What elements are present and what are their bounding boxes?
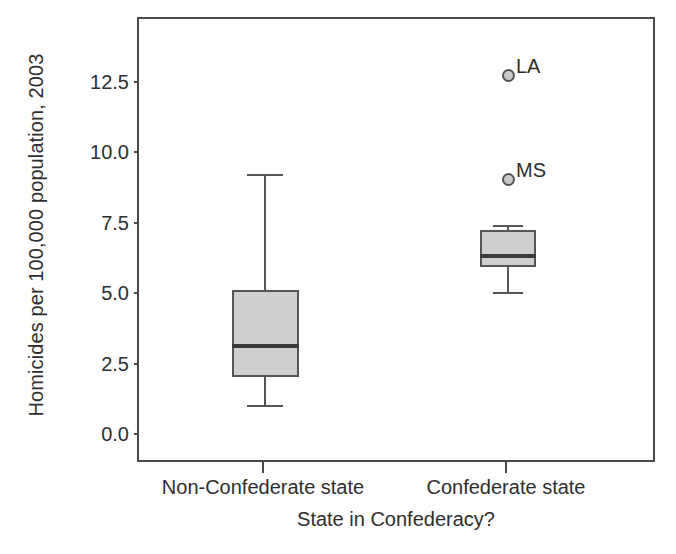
boxplot-group: LAMS [139,19,653,460]
y-axis-tick-label: 0.0 [101,422,129,446]
outlier-point[interactable] [502,173,515,186]
whisker-lower [507,267,509,292]
x-axis-tick-mark [505,462,507,473]
x-axis-tick-label: Confederate state [356,476,656,499]
y-axis-tick-label: 2.5 [101,352,129,376]
y-axis-tick: 7.5 [55,211,145,235]
box-iqr [480,230,536,267]
median-line [480,254,536,258]
y-axis-title: Homicides per 100,000 population, 2003 [23,15,49,455]
y-axis-tick: 12.5 [55,70,145,94]
y-axis-tick-label: 12.5 [90,70,129,94]
y-axis-tick-label: 7.5 [101,211,129,235]
outlier-label: LA [516,56,540,76]
outlier-point[interactable] [502,69,515,82]
boxplot-figure: Homicides per 100,000 population, 2003 0… [0,0,676,554]
y-axis-tick: 5.0 [55,281,145,305]
y-axis-tick: 10.0 [55,140,145,164]
plot-area: LAMS [137,17,655,462]
y-axis-tick: 2.5 [55,352,145,376]
outlier-label: MS [516,160,546,180]
x-axis-tick-mark [262,462,264,473]
y-axis-tick-label: 10.0 [90,140,129,164]
y-axis-tick: 0.0 [55,422,145,446]
whisker-cap-upper [493,225,523,227]
y-axis-tick-label: 5.0 [101,281,129,305]
x-axis-title: State in Confederacy? [137,508,655,531]
whisker-cap-lower [493,292,523,294]
